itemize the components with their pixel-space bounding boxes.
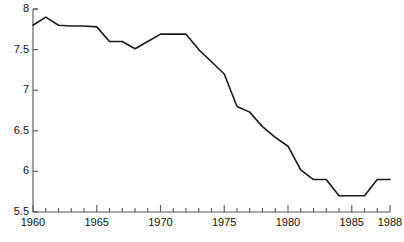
y-axis-tick-label: 7.5 — [14, 44, 29, 55]
x-axis-tick-label: 1980 — [272, 217, 304, 228]
y-axis-tick-label: 8 — [23, 3, 29, 14]
x-axis-tick-label: 1960 — [17, 217, 49, 228]
x-axis-tick-label: 1975 — [208, 217, 240, 228]
chart-plot-area — [0, 0, 404, 242]
x-axis-tick-label: 1965 — [81, 217, 113, 228]
x-axis-tick-label: 1970 — [145, 217, 177, 228]
data-series-line — [33, 17, 390, 196]
x-axis-tick-label: 1988 — [374, 217, 404, 228]
y-axis-tick-label: 7 — [23, 84, 29, 95]
line-chart: 5.566.577.581960196519701975198019851988 — [0, 0, 404, 242]
y-axis-tick-label: 6.5 — [14, 125, 29, 136]
y-axis-tick-label: 6 — [23, 165, 29, 176]
x-axis-tick-label: 1985 — [336, 217, 368, 228]
